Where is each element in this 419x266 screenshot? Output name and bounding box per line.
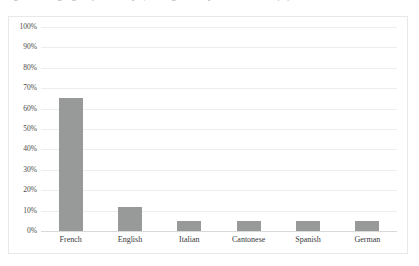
bar-slot-german: German xyxy=(338,27,397,231)
y-tick-label-20: 20% xyxy=(23,186,37,194)
y-tick-label-70: 70% xyxy=(23,84,37,92)
y-tick-label-80: 80% xyxy=(23,64,37,72)
y-tick-label-10: 10% xyxy=(23,207,37,215)
bar-series: FrenchEnglishItalianCantoneseSpanishGerm… xyxy=(41,27,397,231)
bar-slot-cantonese: Cantonese xyxy=(219,27,278,231)
y-tick-label-60: 60% xyxy=(23,105,37,113)
x-tick-label-english: English xyxy=(118,236,142,244)
plot-area: 0%10%20%30%40%50%60%70%80%90%100% French… xyxy=(41,27,397,231)
bar-french[interactable] xyxy=(59,98,83,231)
figure-caption-clipped: Figure 3. Languages of manuscripts, cata… xyxy=(0,0,419,9)
x-tick-label-french: French xyxy=(60,236,82,244)
bar-slot-spanish: Spanish xyxy=(278,27,337,231)
bar-spanish[interactable] xyxy=(296,221,320,231)
y-tick-label-40: 40% xyxy=(23,146,37,154)
y-tick-label-90: 90% xyxy=(23,44,37,52)
y-tick-label-30: 30% xyxy=(23,166,37,174)
bar-german[interactable] xyxy=(355,221,379,231)
figure-caption-text: Figure 3. Languages of manuscripts, cata… xyxy=(6,0,291,1)
y-tick-label-100: 100% xyxy=(20,23,38,31)
bar-slot-english: English xyxy=(100,27,159,231)
bar-slot-french: French xyxy=(41,27,100,231)
bar-english[interactable] xyxy=(118,207,142,231)
y-tick-label-0: 0% xyxy=(27,227,37,235)
x-tick-label-german: German xyxy=(354,236,380,244)
x-tick-label-italian: Italian xyxy=(179,236,199,244)
bar-cantonese[interactable] xyxy=(237,221,261,231)
bar-slot-italian: Italian xyxy=(160,27,219,231)
y-tick-label-50: 50% xyxy=(23,125,37,133)
x-tick-label-cantonese: Cantonese xyxy=(232,236,265,244)
gridline-0 xyxy=(41,231,397,232)
bar-italian[interactable] xyxy=(177,221,201,231)
figure-page: Figure 3. Languages of manuscripts, cata… xyxy=(0,0,419,266)
x-tick-label-spanish: Spanish xyxy=(295,236,320,244)
chart-frame: 0%10%20%30%40%50%60%70%80%90%100% French… xyxy=(8,16,408,254)
